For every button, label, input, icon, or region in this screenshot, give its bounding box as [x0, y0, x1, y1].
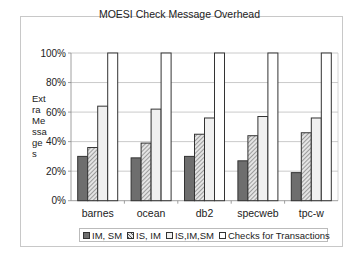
bar — [215, 53, 225, 201]
bars — [78, 53, 332, 201]
x-tick-label: specweb — [237, 207, 279, 219]
legend-swatch-icon — [127, 232, 134, 239]
y-tick-label: 40% — [46, 136, 66, 147]
legend-item: Checks for Transactions — [219, 230, 330, 241]
legend-swatch-icon — [83, 232, 90, 239]
y-tick-label: 80% — [46, 77, 66, 88]
bar — [98, 106, 108, 201]
bar — [291, 173, 301, 201]
x-tick-label: barnes — [82, 207, 114, 219]
legend-swatch-icon — [219, 232, 226, 239]
legend-swatch-icon — [166, 232, 173, 239]
y-tick-label: 60% — [46, 107, 66, 118]
bar — [131, 158, 141, 201]
bar — [195, 134, 205, 200]
legend-item: IS, IM — [127, 230, 161, 241]
bar — [311, 118, 321, 201]
bar — [108, 53, 118, 201]
legend-label: IM, SM — [92, 230, 122, 241]
x-tick-label: ocean — [137, 207, 166, 219]
bar — [258, 117, 268, 201]
plot-area: 0%20%40%60%80%100% barnesoceandb2specweb… — [0, 0, 359, 256]
bar — [301, 133, 311, 201]
legend-label: Checks for Transactions — [228, 230, 330, 241]
y-tick-label: 0% — [52, 195, 67, 206]
bar — [141, 143, 151, 201]
x-tick-label: db2 — [196, 207, 214, 219]
bar — [151, 109, 161, 201]
legend: IM, SMIS, IMIS,IM,SMChecks for Transacti… — [79, 228, 328, 242]
bar — [185, 156, 195, 200]
y-axis-ticks: 0%20%40%60%80%100% — [40, 48, 71, 207]
x-axis-labels: barnesoceandb2specwebtpc-w — [82, 207, 325, 219]
bar — [88, 148, 98, 201]
y-tick-label: 100% — [40, 48, 66, 59]
bar — [248, 136, 258, 201]
bar — [238, 161, 248, 201]
legend-item: IS,IM,SM — [166, 230, 214, 241]
bar — [321, 53, 331, 201]
y-tick-label: 20% — [46, 166, 66, 177]
bar — [78, 156, 88, 200]
bar — [268, 53, 278, 201]
legend-item: IM, SM — [83, 230, 122, 241]
x-tick-label: tpc-w — [299, 207, 325, 219]
legend-label: IS, IM — [136, 230, 161, 241]
bar — [161, 53, 171, 201]
bar — [205, 118, 215, 201]
legend-label: IS,IM,SM — [175, 230, 214, 241]
